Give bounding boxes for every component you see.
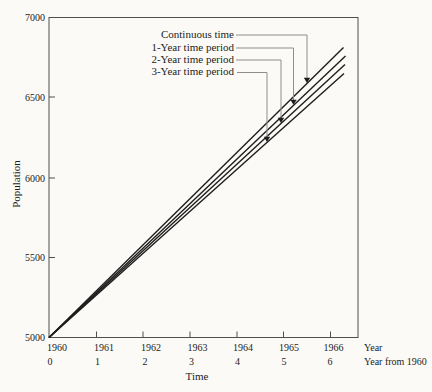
x-tick-label-offset: 0 [34,356,66,367]
x-tick-label-year: 1966 [318,342,350,353]
x-tick-label-year: 1963 [182,342,214,353]
x-axis-unit-year: Year [364,342,382,353]
legend-item: 3-Year time period [151,66,234,77]
legend-item: 1-Year time period [151,42,234,53]
x-tick-label-offset: 2 [129,356,161,367]
y-tick-label: 5500 [4,252,45,263]
y-tick-label: 5000 [4,332,45,343]
x-axis-unit-year-from-1960: Year from 1960 [364,356,427,367]
three-year-line [49,74,344,338]
x-tick-label-offset: 1 [82,356,114,367]
legend-leader-line [236,60,281,119]
y-tick-label: 7000 [4,12,45,23]
x-tick-label-offset: 4 [222,356,254,367]
x-tick-label-offset: 5 [268,356,300,367]
x-tick-label-year: 1965 [273,342,305,353]
population-growth-chart: 5000550060006500700019601961196219631964… [0,0,432,392]
x-tick-label-year: 1962 [135,342,167,353]
legend-item: 2-Year time period [151,54,234,65]
x-tick-label-offset: 6 [314,356,346,367]
legend-item: Continuous time [161,29,234,40]
x-tick-label-year: 1960 [41,342,73,353]
one-year-line [49,56,346,338]
y-tick-label: 6500 [4,92,45,103]
x-tick-label-year: 1964 [227,342,259,353]
continuous-time-line [49,48,344,338]
legend-leader-line [236,48,294,100]
x-axis-title: Time [167,370,227,382]
y-axis-title: Population [10,160,22,208]
legend-leader-line [236,35,307,78]
x-tick-label-offset: 3 [176,356,208,367]
two-year-line [49,65,345,338]
x-tick-label-year: 1961 [88,342,120,353]
